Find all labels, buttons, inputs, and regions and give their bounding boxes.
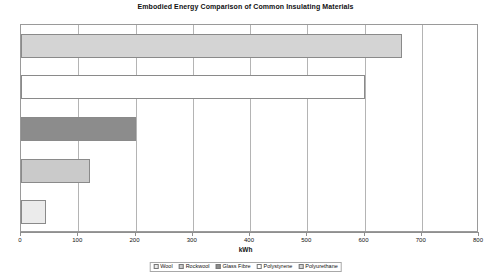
legend-swatch xyxy=(298,264,303,269)
x-tick-label: 600 xyxy=(358,237,368,243)
bar-series xyxy=(21,25,477,231)
plot-area xyxy=(20,24,478,232)
legend-label: Glass Fibre xyxy=(222,264,250,270)
legend-swatch xyxy=(153,264,158,269)
x-tick-label: 100 xyxy=(72,237,82,243)
legend-swatch xyxy=(257,264,262,269)
chart-title: Embodied Energy Comparison of Common Ins… xyxy=(0,3,491,10)
bar-polystyrene[interactable] xyxy=(21,75,365,99)
chart-legend: WoolRockwoolGlass FibrePolystyrenePolyur… xyxy=(149,262,342,272)
x-tick-label: 200 xyxy=(129,237,139,243)
x-tick xyxy=(20,232,21,236)
legend-label: Polyurethane xyxy=(305,264,337,270)
legend-swatch xyxy=(215,264,220,269)
x-tick-label: 500 xyxy=(301,237,311,243)
x-tick xyxy=(306,232,307,236)
legend-label: Rockwool xyxy=(186,264,210,270)
x-tick-label: 0 xyxy=(18,237,21,243)
bar-row xyxy=(21,75,479,99)
x-tick xyxy=(421,232,422,236)
bar-rockwool[interactable] xyxy=(21,159,90,183)
legend-item-glass-fibre[interactable]: Glass Fibre xyxy=(215,264,250,270)
legend-item-wool[interactable]: Wool xyxy=(153,264,172,270)
bar-row xyxy=(21,34,479,58)
x-tick xyxy=(77,232,78,236)
x-tick xyxy=(364,232,365,236)
x-tick xyxy=(249,232,250,236)
bar-row xyxy=(21,200,479,224)
bar-glass-fibre[interactable] xyxy=(21,117,136,141)
x-tick xyxy=(478,232,479,236)
x-tick-label: 800 xyxy=(473,237,483,243)
legend-swatch xyxy=(179,264,184,269)
legend-item-polystyrene[interactable]: Polystyrene xyxy=(257,264,293,270)
chart-container: Embodied Energy Comparison of Common Ins… xyxy=(0,0,491,280)
x-tick-label: 300 xyxy=(187,237,197,243)
bar-row xyxy=(21,117,479,141)
legend-label: Polystyrene xyxy=(264,264,293,270)
legend-item-polyurethane[interactable]: Polyurethane xyxy=(298,264,337,270)
x-tick-label: 700 xyxy=(416,237,426,243)
bar-polyurethane[interactable] xyxy=(21,34,402,58)
x-tick xyxy=(135,232,136,236)
x-tick-label: 400 xyxy=(244,237,254,243)
x-tick xyxy=(192,232,193,236)
legend-item-rockwool[interactable]: Rockwool xyxy=(179,264,210,270)
legend-label: Wool xyxy=(160,264,172,270)
bar-wool[interactable] xyxy=(21,200,46,224)
x-axis-label: kWh xyxy=(0,246,491,253)
bar-row xyxy=(21,159,479,183)
